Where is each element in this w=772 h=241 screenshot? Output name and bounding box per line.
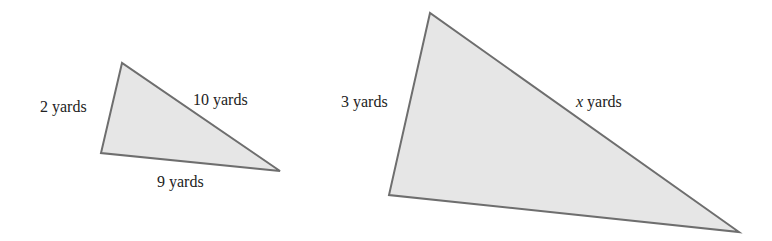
- unit-text: yards: [583, 93, 622, 110]
- large-triangle: [389, 13, 739, 232]
- diagram-canvas: [0, 0, 772, 241]
- small-left-side-label: 2 yards: [40, 99, 87, 115]
- small-hypotenuse-label: 10 yards: [193, 92, 248, 108]
- small-triangle: [101, 63, 280, 171]
- large-left-side-label: 3 yards: [341, 94, 388, 110]
- small-bottom-label: 9 yards: [157, 174, 204, 190]
- large-hypotenuse-label: x yards: [576, 94, 622, 110]
